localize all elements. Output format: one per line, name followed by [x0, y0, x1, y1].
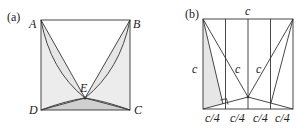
- vertex-e-label: E: [79, 81, 88, 95]
- vertex-b-label: B: [133, 17, 141, 31]
- bottom-label-2: c/4: [230, 111, 245, 125]
- bottom-label-1: c/4: [205, 111, 220, 125]
- bottom-label-4: c/4: [275, 111, 290, 125]
- panel-b: (b) c c c c c/4 c/4 c/4 c/4: [185, 4, 293, 125]
- line-top-right-to-foot: [271, 19, 293, 103]
- bottom-label-3: c/4: [253, 111, 268, 125]
- panel-b-tag: (b): [185, 7, 199, 21]
- panel-a-tag: (a): [7, 10, 20, 24]
- vertex-a-label: A: [28, 17, 37, 31]
- center-point: [247, 96, 250, 99]
- panel-a: (a) A B E D C: [7, 10, 143, 117]
- vertex-c-label: C: [134, 103, 143, 117]
- vertex-d-label: D: [28, 103, 38, 117]
- inner-right-label: c: [256, 62, 262, 76]
- point-e: [84, 97, 87, 100]
- inner-left-label: c: [235, 62, 241, 76]
- left-side-label: c: [192, 62, 198, 76]
- top-side-label: c: [245, 4, 251, 18]
- figure: (a) A B E D C (b) c c c c c/4 c/4 c/4 c/…: [0, 0, 307, 131]
